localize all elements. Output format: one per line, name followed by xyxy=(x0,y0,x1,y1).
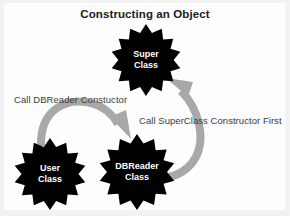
node-user-class-line2: Class xyxy=(38,174,62,185)
node-dbreader-class-line2: Class xyxy=(125,172,149,183)
node-dbreader-class-line1: DBReader xyxy=(115,161,159,172)
node-user-class-line1: User xyxy=(40,163,60,174)
constructing-an-object-diagram: Constructing an Object Super Class User … xyxy=(0,0,290,216)
arrow-user-to-dbreader xyxy=(41,102,131,146)
arrow-label-dbreader-to-super: Call SuperClass Constructor First xyxy=(139,115,282,126)
node-super-class-line1: Super xyxy=(133,49,159,60)
arrow-label-user-to-dbreader: Call DBReader Constuctor xyxy=(14,94,127,105)
node-super-class-line2: Class xyxy=(134,60,158,71)
